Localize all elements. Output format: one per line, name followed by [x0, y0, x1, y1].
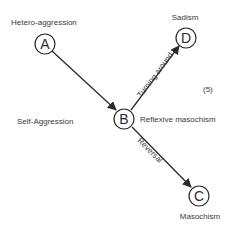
- node-c: C: [189, 186, 209, 206]
- node-a: A: [35, 34, 55, 54]
- node-c-letter: C: [194, 188, 204, 204]
- node-a-label: Hetero-aggression: [11, 18, 77, 27]
- self-aggression-label: Self-Aggression: [17, 117, 73, 126]
- psychoanalytic-diagram: Turning around Reversal A Hetero-aggress…: [0, 0, 239, 227]
- node-d: D: [176, 28, 196, 48]
- node-c-label: Masochism: [180, 212, 221, 221]
- node-b: B: [114, 109, 134, 129]
- figure-number: (5): [203, 85, 213, 94]
- node-d-label: Sadism: [172, 13, 199, 22]
- edge-label-turning-around: Turning around: [135, 51, 175, 100]
- node-b-letter: B: [119, 111, 128, 127]
- node-a-letter: A: [40, 36, 50, 52]
- edge-label-reversal: Reversal: [136, 136, 165, 165]
- node-b-label: Reflexive masochism: [140, 115, 216, 124]
- node-d-letter: D: [181, 30, 191, 46]
- edge-a-to-b: [52, 51, 116, 110]
